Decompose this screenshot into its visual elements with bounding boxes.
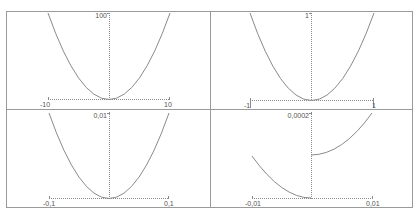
- x-max-label: 10: [164, 101, 172, 108]
- plot-panel-bottom-left: -0,1 0,1 0,01: [43, 112, 174, 207]
- y-max-label: 100: [95, 12, 107, 19]
- plot-grid: -10 10 100 -1 1 1 -0,1 0,1 0,01 -0,01: [0, 0, 420, 220]
- plot-panel-top-right: -1 1 1: [244, 12, 376, 109]
- x-min-label: -1: [244, 102, 250, 109]
- plot-panel-top-left: -10 10 100: [40, 12, 172, 108]
- x-max-label: 1: [372, 102, 376, 109]
- plot-panel-bottom-right: -0,01 0,01 0,0002: [245, 112, 380, 207]
- x-min-label: -10: [40, 101, 50, 108]
- curve-left-branch: [252, 156, 311, 198]
- x-max-label: 0,01: [366, 200, 380, 207]
- x-max-label: 0,1: [164, 200, 174, 207]
- y-max-label: 0,0002: [288, 112, 310, 119]
- x-min-label: -0,1: [43, 200, 55, 207]
- y-max-label: 0,01: [93, 112, 107, 119]
- y-max-label: 1: [305, 12, 309, 19]
- x-min-label: -0,01: [245, 200, 261, 207]
- curve-right-branch: [311, 113, 372, 155]
- curve-parabola: [49, 113, 169, 199]
